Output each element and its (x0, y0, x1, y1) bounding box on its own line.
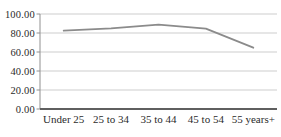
x-category-label: 35 to 44 (140, 112, 176, 126)
y-tick-label: 0.00 (0, 103, 35, 116)
y-tick-label: 40.00 (0, 65, 35, 78)
line-chart: 100.00 80.00 60.00 40.00 20.00 0.00 Unde… (0, 0, 281, 137)
x-category-label: 25 to 34 (93, 112, 129, 126)
y-tick-label: 20.00 (0, 84, 35, 97)
y-tick-label: 80.00 (0, 27, 35, 40)
x-category-label: Under 25 (43, 112, 84, 126)
x-category-label: 55 years+ (232, 112, 275, 126)
x-category-label: 45 to 54 (188, 112, 224, 126)
y-tick-label: 100.00 (0, 8, 35, 21)
y-tick-label: 60.00 (0, 46, 35, 59)
